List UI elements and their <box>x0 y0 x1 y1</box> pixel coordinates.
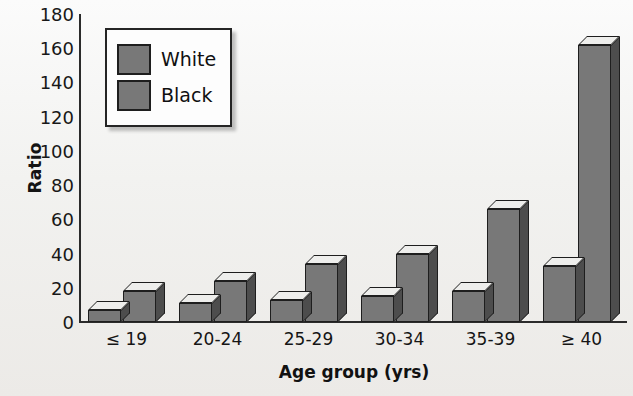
bar-front-face <box>543 266 576 322</box>
y-axis-tick-40: 40 <box>24 243 74 264</box>
y-axis-tick-120: 120 <box>24 106 74 127</box>
bar-group-3 <box>263 14 354 322</box>
y-axis-tick-180: 180 <box>24 4 74 25</box>
y-axis-tick-60: 60 <box>24 209 74 230</box>
bar-group-4 <box>354 14 445 322</box>
bar-side-face <box>429 245 438 322</box>
legend-swatch-white <box>117 44 151 75</box>
x-axis-tick-3: 25-29 <box>284 329 333 349</box>
x-axis-tick-6: ≥ 40 <box>561 329 602 349</box>
bar-front-face <box>88 310 121 322</box>
bar-white-5 <box>452 291 485 322</box>
bar-side-face <box>520 200 529 322</box>
bar-white-3 <box>270 300 303 322</box>
legend-label-black: Black <box>161 86 212 105</box>
bar-side-face <box>611 36 620 322</box>
bar-front-face <box>270 300 303 322</box>
bar-side-face <box>338 255 347 322</box>
y-axis-tick-labels: 180160140120100806040200 <box>24 0 74 396</box>
bar-white-2 <box>179 303 212 322</box>
x-axis-tick-2: 20-24 <box>193 329 242 349</box>
y-axis-tick-160: 160 <box>24 38 74 59</box>
bar-chart: Ratio 180160140120100806040200 White Bla… <box>0 0 633 396</box>
x-axis-tick-4: 30-34 <box>375 329 424 349</box>
bar-white-4 <box>361 296 394 322</box>
x-axis-title: Age group (yrs) <box>81 362 627 382</box>
legend-swatch-black <box>117 80 151 111</box>
legend-label-white: White <box>161 50 216 69</box>
x-axis-tick-labels: ≤ 1920-2425-2930-3435-39≥ 40 <box>81 329 627 355</box>
y-axis-tick-20: 20 <box>24 277 74 298</box>
bar-white-6 <box>543 266 576 322</box>
bar-front-face <box>452 291 485 322</box>
y-axis-tick-100: 100 <box>24 140 74 161</box>
bar-front-face <box>361 296 394 322</box>
bar-front-face <box>179 303 212 322</box>
chart-legend: White Black <box>105 28 232 127</box>
bar-group-6 <box>536 14 627 322</box>
bar-white-1 <box>88 310 121 322</box>
y-axis-tick-0: 0 <box>24 312 74 333</box>
bar-side-face <box>576 257 585 322</box>
y-axis-tick-80: 80 <box>24 175 74 196</box>
y-axis-tick-140: 140 <box>24 72 74 93</box>
x-axis-tick-1: ≤ 19 <box>106 329 147 349</box>
x-axis-tick-5: 35-39 <box>466 329 515 349</box>
bar-group-5 <box>445 14 536 322</box>
legend-item-black: Black <box>117 80 216 111</box>
legend-item-white: White <box>117 44 216 75</box>
